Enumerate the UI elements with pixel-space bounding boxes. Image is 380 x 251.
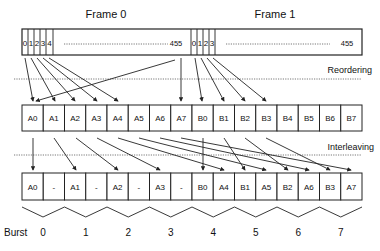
burst-number: 0	[40, 227, 46, 238]
frame-1-last-bit: 455	[341, 39, 354, 48]
burst-number: 4	[210, 227, 216, 238]
reordered-block: B6	[325, 114, 335, 123]
frame-1-bit-2: 2	[204, 39, 209, 48]
reordered-block: B5	[304, 114, 314, 123]
interleaved-block: A3	[155, 183, 165, 192]
interleaving-diagram: Frame 0 Frame 1 0 1 2 3 4 455 0 1 2 3 45…	[0, 0, 380, 251]
reordered-block: A7	[177, 114, 187, 123]
interleaved-block: A5	[262, 183, 272, 192]
reordered-block: A6	[155, 114, 165, 123]
frame-1-bit-3: 3	[210, 39, 215, 48]
burst-number: 1	[83, 227, 89, 238]
frame-0-bit-0: 0	[23, 39, 28, 48]
reordered-block: B3	[262, 114, 272, 123]
reordered-block: B2	[240, 114, 250, 123]
frame-1-title: Frame 1	[255, 8, 296, 20]
burst-braces	[22, 207, 362, 217]
interleaved-block: B2	[283, 183, 293, 192]
interleaving-label: Interleaving	[327, 142, 374, 152]
burst-number: 2	[125, 227, 131, 238]
burst-number: 5	[253, 227, 259, 238]
interleaved-block: A7	[347, 183, 357, 192]
burst-label: Burst	[4, 227, 28, 238]
burst-number: 7	[338, 227, 344, 238]
reordered-block: A1	[49, 114, 59, 123]
frame-1-bit-0: 0	[192, 39, 197, 48]
reordering-arrows	[25, 58, 266, 101]
interleaving-arrows	[33, 138, 351, 170]
interleaved-block: -	[95, 183, 98, 192]
interleaved-block: A0	[28, 183, 38, 192]
interleaved-block: -	[138, 183, 141, 192]
frame-0-bit-4: 4	[47, 39, 52, 48]
interleaved-block: A2	[113, 183, 123, 192]
reordered-block: B1	[219, 114, 229, 123]
reordered-block: A3	[92, 114, 102, 123]
interleaved-block: A4	[219, 183, 229, 192]
reordering-label: Reordering	[327, 65, 372, 75]
interleaved-block: A1	[70, 183, 80, 192]
frame-0-bit-3: 3	[41, 39, 46, 48]
reordered-block: B7	[347, 114, 357, 123]
interleaved-block: B3	[325, 183, 335, 192]
burst-number: 3	[168, 227, 174, 238]
frame-1-bit-1: 1	[198, 39, 203, 48]
interleaved-block: B1	[240, 183, 250, 192]
reordered-block: A4	[113, 114, 123, 123]
frame-0-last-bit: 455	[170, 39, 183, 48]
frame-0-title: Frame 0	[86, 8, 127, 20]
reordered-block: B0	[198, 114, 208, 123]
reordered-block: A5	[134, 114, 144, 123]
frame-row: 0 1 2 3 4 455 0 1 2 3 455	[22, 29, 362, 55]
interleaved-row: A0 - A1 - A2 - A3 - B0 A4 B1 A5 B2 A6 B3…	[22, 173, 362, 200]
frame-0-bit-1: 1	[29, 39, 34, 48]
reordered-row: A0 A1 A2 A3 A4 A5 A6 A7 B0 B1 B2 B3 B4 B…	[22, 105, 362, 131]
interleaved-block: -	[53, 183, 56, 192]
reordered-block: A2	[70, 114, 80, 123]
frame-0-bit-2: 2	[35, 39, 40, 48]
reordered-block: B4	[283, 114, 293, 123]
burst-number: 6	[295, 227, 301, 238]
interleaved-block: -	[180, 183, 183, 192]
reordered-block: A0	[28, 114, 38, 123]
interleaved-block: B0	[198, 183, 208, 192]
interleaved-block: A6	[304, 183, 314, 192]
